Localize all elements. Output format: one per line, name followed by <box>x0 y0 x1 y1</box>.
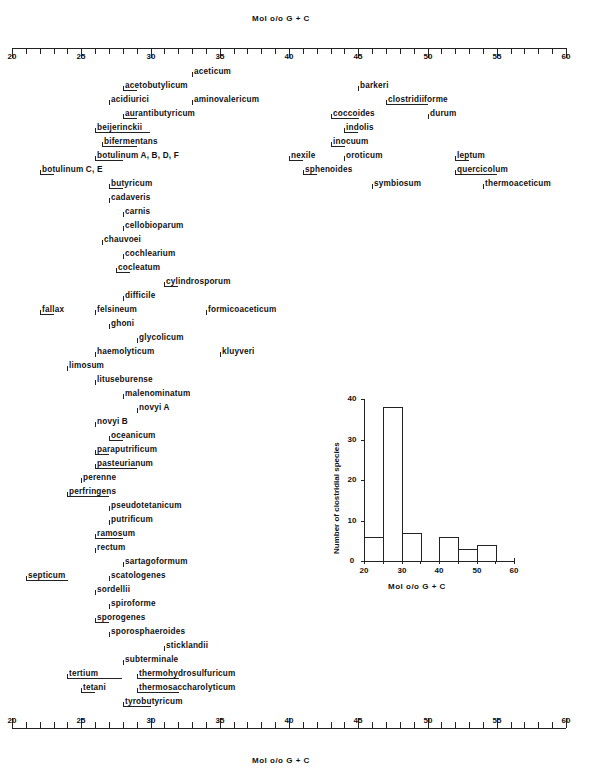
bottom-axis-tick <box>192 722 193 728</box>
hist-y-tick-label: 30 <box>348 435 357 444</box>
bottom-axis-tick-label: 45 <box>354 716 363 725</box>
bottom-axis-tick <box>469 722 470 728</box>
species-entry: difficile <box>123 287 323 301</box>
species-name: butyricum <box>111 179 152 188</box>
species-name: tertium <box>69 669 98 678</box>
species-entry: paraputrificum <box>95 441 295 455</box>
species-name: aminovalericum <box>194 95 259 104</box>
top-axis-tick <box>441 48 442 54</box>
bottom-axis-tick <box>441 722 442 728</box>
species-name: aceticum <box>194 67 231 76</box>
bottom-axis-tick <box>137 722 138 728</box>
species-name: botulinum A, B, D, F <box>97 151 179 160</box>
species-entry: perenne <box>81 469 281 483</box>
species-name: felsineum <box>97 305 137 314</box>
species-name: oceanicum <box>111 431 156 440</box>
top-axis-tick <box>192 48 193 54</box>
species-name: ramosum <box>97 529 135 538</box>
bottom-axis-tick <box>95 722 96 728</box>
top-axis-tick <box>275 48 276 54</box>
species-entry: quercicolum <box>455 161 593 175</box>
hist-bar <box>458 549 478 561</box>
top-axis-tick <box>67 48 68 54</box>
top-axis-tick <box>164 48 165 54</box>
species-gc-range-bar <box>303 174 317 175</box>
species-name: cadaveris <box>111 193 151 202</box>
species-entry: glycolicum <box>137 329 337 343</box>
bottom-axis-tick <box>344 722 345 728</box>
top-axis-tick <box>26 48 27 54</box>
hist-x-tick-label: 60 <box>510 566 519 575</box>
bottom-axis-tick <box>40 722 41 728</box>
species-entry: perfringens <box>67 483 267 497</box>
top-axis-tick <box>552 48 553 54</box>
species-name: scatologenes <box>111 571 166 580</box>
hist-y-axis-title: Number of clostridial species <box>332 442 341 554</box>
hist-x-tick-label: 30 <box>398 566 407 575</box>
species-gc-tick <box>483 184 484 189</box>
species-name: thermoaceticum <box>485 179 551 188</box>
bottom-axis-tick-label: 40 <box>285 716 294 725</box>
species-name: coccoides <box>333 109 375 118</box>
hist-bar <box>383 407 403 561</box>
hist-y-tick-label: 0 <box>350 556 354 565</box>
species-name: limosum <box>69 361 104 370</box>
species-gc-tick <box>109 324 110 329</box>
hist-x-tick <box>514 558 515 564</box>
species-entry: aurantibutyricum <box>123 105 323 119</box>
bottom-axis-tick-label: 20 <box>8 716 17 725</box>
species-entry: carnis <box>123 203 323 217</box>
species-entry: aminovalericum <box>192 91 392 105</box>
species-entry: putrificum <box>109 511 309 525</box>
species-entry: thermoaceticum <box>483 175 593 189</box>
species-name: difficile <box>125 291 155 300</box>
bottom-axis-tick <box>538 722 539 728</box>
species-name: sticklandii <box>166 641 208 650</box>
top-axis-tick-label: 50 <box>424 52 433 61</box>
species-name: quercicolum <box>457 165 508 174</box>
species-entry: sordellii <box>95 581 295 595</box>
species-gc-range-bar <box>116 272 130 273</box>
hist-bar <box>364 537 384 561</box>
species-entry: spiroforme <box>109 595 309 609</box>
species-gc-tick <box>95 590 96 595</box>
species-name: sporogenes <box>97 613 145 622</box>
species-name: novyi A <box>139 403 170 412</box>
species-entry: cadaveris <box>109 189 309 203</box>
species-entry: sporogenes <box>95 609 295 623</box>
bottom-axis-tick <box>455 722 456 728</box>
hist-y-tick-label: 20 <box>348 475 357 484</box>
top-axis-tick <box>234 48 235 54</box>
species-name: symbiosum <box>374 179 421 188</box>
hist-bar <box>439 537 459 561</box>
species-name: nexile <box>291 151 315 160</box>
bottom-axis-tick <box>483 722 484 728</box>
species-entry: sartagoformum <box>123 553 323 567</box>
species-name: barkeri <box>360 81 389 90</box>
species-gc-tick <box>95 310 96 315</box>
species-gc-tick <box>102 240 103 245</box>
species-name: thermohydrosulfuricum <box>139 669 236 678</box>
species-entry: inocuum <box>331 133 531 147</box>
species-name: thermosaccharolyticum <box>139 683 236 692</box>
bottom-axis-tick <box>386 722 387 728</box>
bottom-axis-tick <box>400 722 401 728</box>
top-axis-tick <box>206 48 207 54</box>
top-axis-tick <box>538 48 539 54</box>
top-axis-tick-label: 30 <box>147 52 156 61</box>
species-gc-tick <box>95 422 96 427</box>
bottom-axis-tick <box>511 722 512 728</box>
species-name: botulinum C, E <box>42 165 103 174</box>
species-entry: pasteurianum <box>95 455 295 469</box>
species-entry: indolis <box>344 119 544 133</box>
species-name: beijerinckii <box>97 123 142 132</box>
top-axis-tick <box>178 48 179 54</box>
species-name: pseudotetanicum <box>111 501 182 510</box>
species-name: spiroforme <box>111 599 156 608</box>
top-axis-tick <box>386 48 387 54</box>
species-name: leptum <box>457 151 485 160</box>
species-gc-tick <box>109 100 110 105</box>
species-entry: cellobioparum <box>123 217 323 231</box>
species-gc-tick <box>123 394 124 399</box>
bottom-axis-tick <box>552 722 553 728</box>
